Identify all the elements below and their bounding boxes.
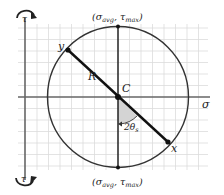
point-top	[116, 25, 120, 29]
label-y: y	[57, 40, 65, 53]
label-x: x	[171, 142, 178, 155]
label-tau-top: τ	[22, 14, 28, 24]
label-sigma: σ	[202, 98, 210, 111]
label-tau-bottom: τ	[21, 174, 27, 184]
point-x	[165, 139, 170, 144]
label-top-coordinates: (σavg, τmax)	[92, 11, 143, 24]
label-bottom-coordinates: (σavg, τmax)	[92, 176, 143, 189]
label-angle: 2θs	[123, 122, 139, 134]
tau-bottom-rotation-icon	[16, 176, 37, 185]
point-y	[65, 47, 70, 52]
tau-top-rotation-icon	[17, 11, 37, 19]
mohrs-circle-diagram: y x R C σ 2θs (σavg, τmax) (σavg, τmax) …	[0, 0, 224, 195]
label-C: C	[122, 82, 131, 95]
point-center	[115, 94, 121, 100]
label-R: R	[87, 70, 96, 83]
point-bottom	[116, 166, 120, 170]
